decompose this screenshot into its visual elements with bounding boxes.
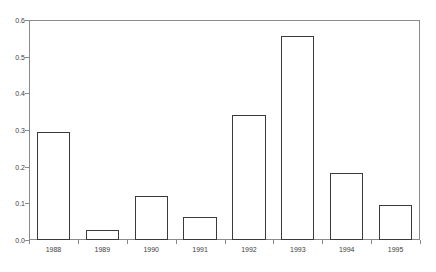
x-tick-label: 1995 <box>388 246 404 254</box>
bar <box>232 115 265 240</box>
x-tick-mark <box>273 240 274 244</box>
x-tick-mark <box>371 240 372 244</box>
x-tick-mark <box>420 240 421 244</box>
y-tick-label: 0.4 <box>0 90 25 97</box>
x-tick-label: 1989 <box>95 246 111 254</box>
y-tick-label: 0.6 <box>0 17 25 24</box>
x-tick-label: 1991 <box>192 246 208 254</box>
bar <box>183 217 216 240</box>
x-tick-label: 1992 <box>241 246 257 254</box>
bar <box>86 230 119 240</box>
y-tick-label: 0.3 <box>0 127 25 134</box>
bar <box>135 196 168 240</box>
y-tick-label: 0.2 <box>0 163 25 170</box>
bar <box>330 173 363 240</box>
bar <box>37 132 70 240</box>
x-tick-label: 1994 <box>339 246 355 254</box>
x-tick-mark <box>78 240 79 244</box>
x-axis: 19881989199019911992199319941995 <box>29 240 420 264</box>
bar <box>379 205 412 240</box>
x-tick-mark <box>176 240 177 244</box>
y-tick-label: 0.5 <box>0 53 25 60</box>
y-tick-label: 0.0 <box>0 237 25 244</box>
y-axis: 0.00.10.20.30.40.50.6 <box>0 20 25 240</box>
x-tick-mark <box>225 240 226 244</box>
x-tick-mark <box>29 240 30 244</box>
x-tick-label: 1993 <box>290 246 306 254</box>
bar <box>281 36 314 240</box>
y-tick-label: 0.1 <box>0 200 25 207</box>
bar-chart: 0.00.10.20.30.40.50.6 198819891990199119… <box>0 0 436 272</box>
x-tick-mark <box>322 240 323 244</box>
x-tick-label: 1988 <box>46 246 62 254</box>
bars-layer <box>29 20 420 240</box>
x-tick-mark <box>127 240 128 244</box>
x-tick-label: 1990 <box>143 246 159 254</box>
